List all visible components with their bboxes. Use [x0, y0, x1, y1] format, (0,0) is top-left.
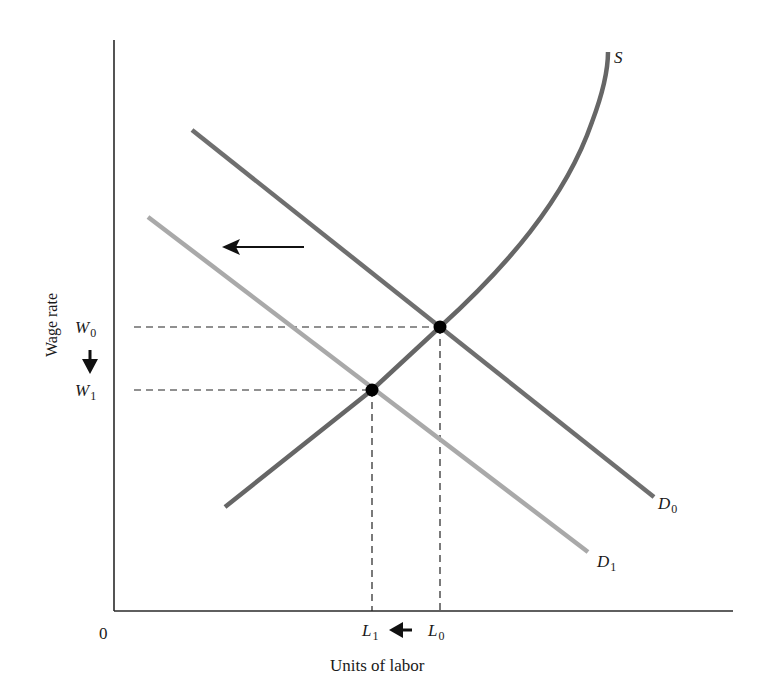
supply-curve [225, 52, 608, 507]
labor-l1-label: L1 [362, 621, 378, 644]
supply-curve-label: S [614, 48, 623, 68]
equilibrium-point-e0 [434, 321, 447, 334]
wage-w0-label: W0 [75, 318, 96, 341]
origin-label: 0 [99, 624, 108, 644]
wage-down-arrow-icon [82, 350, 98, 374]
demand-curve-d0 [192, 130, 654, 497]
equilibrium-point-e1 [366, 384, 379, 397]
chart-canvas [0, 0, 768, 695]
demand-shift-arrow-icon [222, 239, 304, 255]
demand-d0-label: D0 [658, 494, 677, 517]
wage-w1-label: W1 [75, 381, 96, 404]
x-axis-label: Units of labor [330, 656, 424, 676]
labor-l0-label: L0 [428, 621, 444, 644]
y-axis-label: Wage rate [43, 293, 61, 357]
demand-d1-label: D1 [597, 552, 616, 575]
labor-left-arrow-icon [389, 622, 412, 638]
